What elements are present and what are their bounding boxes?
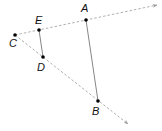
point-E — [37, 28, 41, 32]
point-label-C: C — [9, 37, 17, 49]
segment-ED — [39, 30, 43, 57]
point-B — [96, 99, 100, 103]
point-label-A: A — [80, 2, 88, 14]
point-label-B: B — [92, 105, 99, 117]
ray-CB — [15, 35, 128, 124]
point-label-D: D — [37, 61, 45, 73]
point-label-E: E — [35, 14, 43, 26]
geometry-diagram: ABCDE — [0, 0, 162, 131]
point-D — [41, 55, 45, 59]
segment-AB — [86, 20, 98, 101]
point-A — [84, 18, 88, 22]
